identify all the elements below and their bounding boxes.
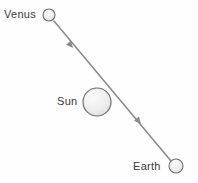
earth-body-circle xyxy=(169,159,183,173)
venus-earth-sight-line xyxy=(54,21,171,161)
sun-body-circle xyxy=(83,88,111,116)
venus-label: Venus xyxy=(4,9,36,20)
sun-label: Sun xyxy=(57,96,77,107)
diagram-canvas xyxy=(0,0,198,183)
earth-label: Earth xyxy=(133,161,161,172)
venus-body-circle xyxy=(43,9,55,21)
astronomy-diagram: Venus Sun Earth xyxy=(0,0,198,183)
